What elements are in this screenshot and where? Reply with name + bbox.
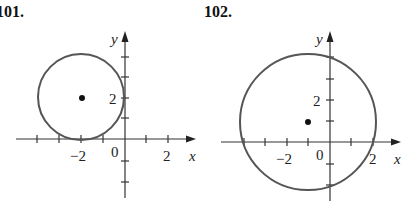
y-axis-arrow-icon xyxy=(327,31,334,42)
graph-101: −2 0 2 2 x y xyxy=(16,31,196,198)
x-tick-label-0: 0 xyxy=(111,144,119,160)
y-axis-arrow-icon xyxy=(122,31,129,42)
x-axis-arrow-icon xyxy=(391,139,401,146)
center-point-102 xyxy=(305,119,311,125)
x-tick-label-neg2: −2 xyxy=(70,148,86,164)
x-axis-label: x xyxy=(188,148,196,164)
x-tick-label-2: 2 xyxy=(369,151,377,167)
graph-102: −2 0 2 2 x y xyxy=(221,31,401,201)
x-axis-arrow-icon xyxy=(186,136,196,143)
center-point-101 xyxy=(79,95,85,101)
y-axis-label: y xyxy=(109,31,118,47)
graphs: −2 0 2 2 x y −2 0 2 xyxy=(0,0,417,213)
y-tick-label-2: 2 xyxy=(313,93,321,109)
y-tick-label-2: 2 xyxy=(109,91,117,107)
x-tick-label-neg2: −2 xyxy=(276,151,292,167)
x-axis-label: x xyxy=(393,151,401,167)
x-tick-label-0: 0 xyxy=(316,147,324,163)
x-tick-label-2: 2 xyxy=(163,148,171,164)
y-axis-label: y xyxy=(314,31,323,47)
